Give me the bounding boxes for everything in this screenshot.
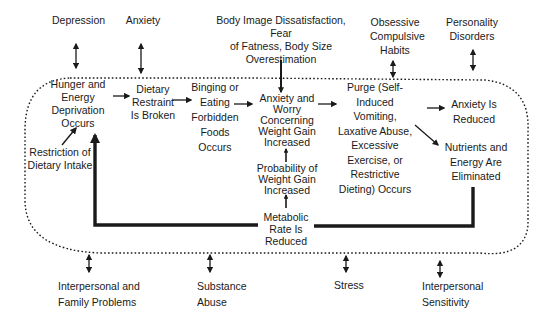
factor-sensitivity: Interpersonal Sensitivity	[422, 278, 502, 310]
factor-body-image: Body Image Dissatisfaction, Fear of Fatn…	[206, 14, 356, 66]
node-hunger: Hunger and Energy Deprivation Occurs	[48, 78, 108, 130]
arrow-restriction-to-hunger	[62, 128, 76, 145]
arrow-purge-to-nutrients	[415, 125, 438, 145]
node-probability: Probability of Weight Gain Increased	[254, 163, 320, 196]
node-metabolic: Metabolic Rate Is Reduced	[258, 211, 314, 247]
node-restraint-broken: Dietary Restraint Is Broken	[128, 83, 178, 122]
node-binging: Binging or Eating Forbidden Foods Occurs	[190, 80, 240, 155]
factor-depression: Depression	[52, 13, 102, 27]
node-anxiety-reduced: Anxiety Is Reduced	[446, 97, 502, 127]
factor-ocd: Obsessive Compulsive Habits	[370, 15, 420, 57]
factor-interpersonal-family: Interpersonal and Family Problems	[58, 278, 148, 310]
factor-personality: Personality Disorders	[444, 15, 500, 43]
node-nutrients: Nutrients and Energy Are Eliminated	[440, 140, 512, 184]
node-restriction: Restriction of Dietary Intake	[26, 146, 94, 172]
factor-anxiety: Anxiety	[121, 13, 165, 27]
factor-stress: Stress	[334, 278, 374, 292]
factor-substance: Substance Abuse	[197, 278, 257, 310]
node-purge: Purge (Self- Induced Vomiting, Laxative …	[336, 80, 414, 196]
node-anxiety-worry: Anxiety and Worry Concerning Weight Gain…	[254, 93, 320, 148]
